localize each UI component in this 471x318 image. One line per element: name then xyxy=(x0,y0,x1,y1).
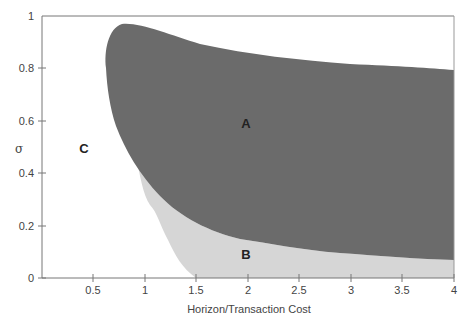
phase-diagram-chart: 0 0.2 0.4 0.6 0.8 1 0.5 1 1.5 2 2.5 3 3.… xyxy=(0,0,471,318)
region-b-label: B xyxy=(241,247,250,262)
region-c-label: C xyxy=(79,141,89,156)
y-tick-label: 0 xyxy=(28,272,34,284)
x-tick-label: 3 xyxy=(348,284,354,296)
y-tick-label: 0.2 xyxy=(19,220,34,232)
x-tick-label: 2 xyxy=(245,284,251,296)
y-tick-label: 0.4 xyxy=(19,167,34,179)
region-a-label: A xyxy=(241,116,251,131)
x-tick-label: 2.5 xyxy=(291,284,306,296)
region-a-area xyxy=(106,24,454,260)
x-tick-label: 4 xyxy=(451,284,457,296)
x-tick-label: 0.5 xyxy=(85,284,100,296)
y-tick-label: 0.6 xyxy=(19,115,34,127)
y-tick-label: 0.8 xyxy=(19,62,34,74)
x-tick-label: 1.5 xyxy=(188,284,203,296)
x-tick-label: 1 xyxy=(142,284,148,296)
x-axis-title: Horizon/Transaction Cost xyxy=(187,303,311,315)
y-axis-title: σ xyxy=(15,142,23,156)
y-tick-label: 1 xyxy=(28,10,34,22)
x-tick-label: 3.5 xyxy=(394,284,409,296)
